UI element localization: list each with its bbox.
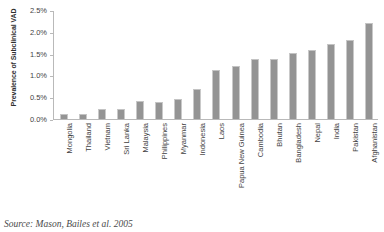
y-axis-tick: 1.5%: [0, 50, 53, 60]
x-axis-tick: Mongolia: [53, 120, 72, 210]
bar: [156, 102, 163, 119]
y-axis-tick: 2.5%: [0, 6, 53, 16]
bar-slot: [341, 11, 360, 119]
bar: [98, 109, 105, 119]
bar: [270, 59, 277, 119]
x-axis-tick: Bangladesh: [282, 120, 301, 210]
x-axis-tick: Indonesia: [187, 120, 206, 210]
y-axis-tick: 0.5%: [0, 93, 53, 103]
x-axis-tick: Laos: [206, 120, 225, 210]
y-axis-tick-label: 2.5%: [30, 6, 47, 16]
x-axis-tick: Sri Lanka: [110, 120, 129, 210]
bar-slot: [73, 11, 92, 119]
y-axis-tick: 0.0%: [0, 115, 53, 125]
bar: [213, 70, 220, 119]
bar-slot: [188, 11, 207, 119]
bar-slot: [283, 11, 302, 119]
bar: [137, 101, 144, 119]
bar: [289, 53, 296, 119]
x-axis-tick: Cambodia: [244, 120, 263, 210]
x-axis-tick: Malaysia: [129, 120, 148, 210]
y-axis-tick-label: 1.5%: [30, 50, 47, 60]
x-axis-tick: Papua New Guinea: [225, 120, 244, 210]
x-axis-ticks: MongoliaThailandVietnamSri LankaMalaysia…: [53, 120, 378, 210]
x-axis-tick: India: [321, 120, 340, 210]
bar: [347, 40, 354, 119]
bar-slot: [169, 11, 188, 119]
x-axis-tick: Philippines: [149, 120, 168, 210]
bar: [175, 99, 182, 119]
bar-slot: [245, 11, 264, 119]
bar-series: [54, 11, 378, 119]
bar: [366, 23, 373, 119]
bar: [194, 89, 201, 119]
bar-slot: [322, 11, 341, 119]
bar-slot: [92, 11, 111, 119]
bar: [328, 44, 335, 119]
y-axis-ticks: 2.5%2.0%1.5%1.0%0.5%0.0%: [0, 0, 53, 232]
chart-figure: Prevalence of Subclinical VAD 2.5%2.0%1.…: [0, 0, 384, 232]
bar-slot: [360, 11, 379, 119]
x-axis-tick: Myanmar: [168, 120, 187, 210]
bar-slot: [264, 11, 283, 119]
x-axis-tick: Afghanistan: [359, 120, 378, 210]
x-axis-tick: Nepal: [302, 120, 321, 210]
bar: [79, 114, 86, 119]
bar-slot: [111, 11, 130, 119]
bar-slot: [54, 11, 73, 119]
bar-slot: [303, 11, 322, 119]
plot-area: [53, 11, 378, 120]
x-axis-tick-label: Afghanistan: [371, 123, 379, 163]
x-axis-tick: Bhutan: [263, 120, 282, 210]
bar: [117, 109, 124, 119]
bar-slot: [130, 11, 149, 119]
source-caption: Source: Mason, Bailes et al. 2005: [4, 219, 133, 229]
bar-slot: [150, 11, 169, 119]
bar: [309, 50, 316, 119]
y-axis-tick-label: 2.0%: [30, 28, 47, 38]
bar: [251, 59, 258, 119]
bar: [232, 66, 239, 119]
bar-slot: [226, 11, 245, 119]
y-axis-tick-label: 1.0%: [30, 71, 47, 81]
bar: [60, 114, 67, 119]
y-axis-tick-label: 0.0%: [30, 115, 47, 125]
x-axis-tick: Pakistan: [340, 120, 359, 210]
x-axis-tick: Vietnam: [91, 120, 110, 210]
y-axis-tick-label: 0.5%: [30, 93, 47, 103]
y-axis-tick: 1.0%: [0, 71, 53, 81]
bar-slot: [207, 11, 226, 119]
y-axis-tick: 2.0%: [0, 28, 53, 38]
x-axis-tick: Thailand: [72, 120, 91, 210]
